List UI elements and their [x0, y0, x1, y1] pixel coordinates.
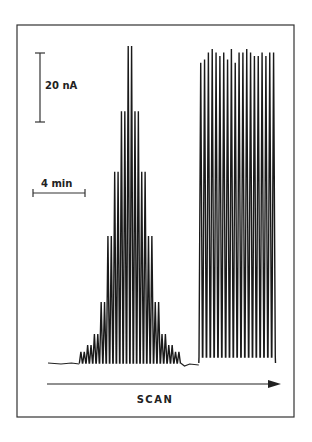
time-scale-label: 4 min [41, 178, 72, 189]
time-scale-bar: 4 min [33, 178, 85, 197]
chart-figure: 20 nA 4 min SCAN [0, 0, 312, 442]
baseline-lead [48, 363, 79, 364]
x-axis-label: SCAN [137, 394, 174, 405]
scan-axis: SCAN [47, 380, 281, 405]
current-scale-bar: 20 nA [35, 53, 78, 122]
current-scale-label: 20 nA [45, 80, 78, 91]
trace-right-group [199, 49, 276, 363]
trace-left-group [79, 46, 180, 363]
trace-group [48, 46, 276, 366]
baseline-gap [181, 363, 199, 366]
scan-arrow-head-icon [268, 380, 281, 388]
